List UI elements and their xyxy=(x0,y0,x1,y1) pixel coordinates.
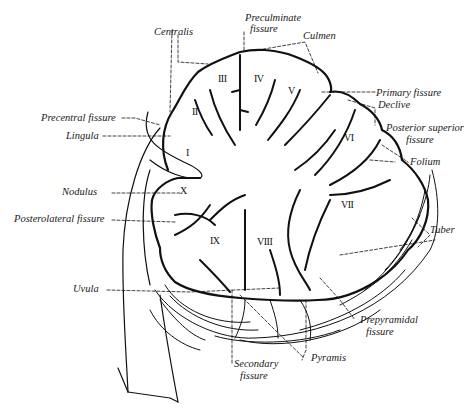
label-secondary-line2: fissure xyxy=(240,370,268,381)
label-primary-fissure: Primary fissure xyxy=(376,87,441,98)
lobule-VIII: VIII xyxy=(257,237,272,247)
label-prepyramidal-line1: Prepyramidal xyxy=(360,314,418,325)
label-pyramis: Pyramis xyxy=(311,352,346,363)
lobule-IX: IX xyxy=(210,236,220,246)
label-folium: Folium xyxy=(410,156,440,167)
cerebellum-diagram: Centralis Preculminate fissure Culmen Pr… xyxy=(0,0,473,412)
lobule-X: X xyxy=(180,186,187,196)
label-uvula: Uvula xyxy=(73,283,99,294)
label-tuber: Tuber xyxy=(430,224,455,235)
label-posterior-superior-line1: Posterior superior xyxy=(386,122,464,133)
label-centralis: Centralis xyxy=(154,26,193,37)
lobule-I: I xyxy=(186,148,189,158)
lobule-II: II xyxy=(192,107,198,117)
arbor-vitae-branches xyxy=(175,55,390,295)
lobule-VI: VI xyxy=(344,133,354,143)
label-lingula: Lingula xyxy=(66,130,99,141)
label-posterolateral-fissure: Posterolateral fissure xyxy=(14,213,105,224)
label-declive: Declive xyxy=(378,99,410,110)
lobule-IV: IV xyxy=(254,74,264,84)
label-nodulus: Nodulus xyxy=(62,186,97,197)
cerebellum-drawing xyxy=(0,0,473,412)
label-precentral-fissure: Precentral fissure xyxy=(41,112,116,123)
label-prepyramidal-line2: fissure xyxy=(366,326,394,337)
label-preculminate-line2: fissure xyxy=(250,23,278,34)
label-preculminate-line1: Preculminate xyxy=(245,12,301,23)
lobule-III: III xyxy=(218,74,227,84)
lobule-V: V xyxy=(288,86,295,96)
lobule-VII: VII xyxy=(341,200,353,210)
label-posterior-superior-line2: fissure xyxy=(406,134,434,145)
label-culmen: Culmen xyxy=(303,30,336,41)
label-secondary-line1: Secondary xyxy=(234,358,278,369)
